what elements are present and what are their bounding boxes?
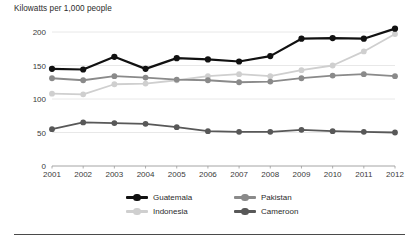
legend-item-cameroon[interactable]: Cameroon	[234, 206, 298, 217]
legend-item-pakistan[interactable]: Pakistan	[234, 192, 292, 203]
data-point	[392, 31, 398, 37]
data-point	[299, 75, 305, 81]
x-axis-tick-label: 2005	[168, 170, 186, 179]
legend-label: Pakistan	[261, 194, 292, 202]
legend-marker-icon	[234, 193, 256, 202]
series-cameroon	[49, 120, 398, 136]
series-line	[52, 34, 395, 94]
data-point	[392, 26, 398, 32]
data-point	[205, 56, 211, 62]
data-point	[80, 120, 86, 126]
legend-label: Guatemala	[153, 194, 192, 202]
data-point	[143, 81, 149, 87]
data-point	[174, 55, 180, 61]
legend-dot	[133, 194, 140, 201]
x-axis-tick-label: 2010	[324, 170, 342, 179]
data-point	[111, 81, 117, 87]
data-point	[299, 67, 305, 73]
legend-label: Indonesia	[153, 208, 188, 216]
chart-legend: GuatemalaPakistanIndonesiaCameroon	[126, 192, 326, 220]
data-point	[49, 66, 55, 72]
legend-item-indonesia[interactable]: Indonesia	[126, 206, 188, 217]
legend-label: Cameroon	[261, 208, 298, 216]
y-axis-tick-labels: 050100150200	[0, 0, 46, 243]
data-point	[80, 77, 86, 83]
data-point	[361, 129, 367, 135]
data-point	[330, 128, 336, 134]
data-point	[392, 73, 398, 79]
data-point	[236, 129, 242, 135]
data-point	[361, 71, 367, 77]
x-axis-tick-labels: 2001200220032004200520062007200820092010…	[52, 170, 395, 184]
y-axis-tick-label: 150	[33, 61, 46, 70]
series-pakistan	[49, 71, 398, 85]
data-point	[330, 63, 336, 69]
series-indonesia	[49, 31, 398, 97]
data-point	[267, 79, 273, 85]
data-point	[142, 66, 148, 72]
data-point	[298, 36, 304, 42]
data-point	[267, 73, 273, 79]
y-axis-tick-label: 200	[33, 28, 46, 37]
series-line	[52, 122, 395, 132]
data-point	[330, 35, 336, 41]
data-point	[392, 130, 398, 136]
data-point	[330, 73, 336, 79]
data-point	[236, 71, 242, 77]
chart-figure: Kilowatts per 1,000 people 050100150200 …	[0, 0, 419, 243]
data-point	[111, 120, 117, 126]
series-line	[52, 29, 395, 70]
legend-marker-icon	[126, 193, 148, 202]
line-chart-svg	[52, 32, 395, 166]
x-axis-tick-label: 2001	[43, 170, 61, 179]
x-axis-tick-label: 2011	[355, 170, 372, 179]
x-axis-tick-label: 2002	[74, 170, 92, 179]
data-point	[174, 124, 180, 130]
data-point	[143, 121, 149, 127]
data-point	[205, 77, 211, 83]
data-point	[267, 129, 273, 135]
y-axis-tick-label: 100	[33, 95, 46, 104]
x-axis-tick-label: 2006	[199, 170, 217, 179]
data-point	[361, 49, 367, 55]
data-point	[267, 53, 273, 59]
data-point	[143, 75, 149, 81]
x-axis-tick-label: 2008	[261, 170, 279, 179]
x-axis-tick-label: 2012	[386, 170, 404, 179]
data-point	[174, 77, 180, 83]
bottom-divider	[14, 234, 405, 235]
legend-dot	[241, 208, 248, 215]
data-point	[49, 91, 55, 97]
data-point	[80, 91, 86, 97]
legend-marker-icon	[234, 207, 256, 216]
data-point	[205, 128, 211, 134]
legend-dot	[241, 194, 248, 201]
data-point	[361, 36, 367, 42]
legend-dot	[133, 208, 140, 215]
data-point	[236, 58, 242, 64]
x-axis-tick-label: 2009	[293, 170, 311, 179]
y-axis-tick-label: 50	[37, 128, 46, 137]
data-point	[49, 126, 55, 132]
data-point	[80, 66, 86, 72]
x-axis-tick-label: 2004	[137, 170, 155, 179]
legend-marker-icon	[126, 207, 148, 216]
data-point	[111, 54, 117, 60]
legend-item-guatemala[interactable]: Guatemala	[126, 192, 192, 203]
data-point	[299, 127, 305, 133]
x-axis-tick-label: 2003	[105, 170, 123, 179]
plot-area	[52, 32, 395, 166]
data-point	[49, 75, 55, 81]
x-axis-tick-label: 2007	[230, 170, 248, 179]
data-point	[111, 73, 117, 79]
data-point	[236, 79, 242, 85]
